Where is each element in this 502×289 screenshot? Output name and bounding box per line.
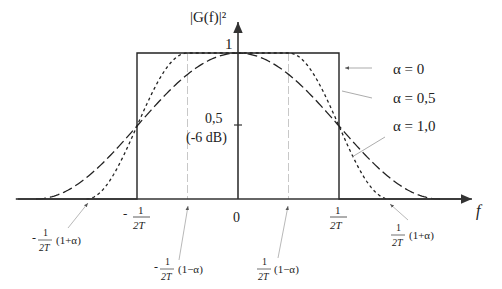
annotation-factor: (1−α) <box>178 263 203 276</box>
annotation-pointer <box>68 203 88 228</box>
tick-sign: - <box>123 206 127 221</box>
annotation-sign: - <box>154 260 158 274</box>
annotation-den: 2T <box>161 271 173 282</box>
annotation-num: 1 <box>262 256 267 267</box>
x-tick-label-neg-half-period: - 1 2T <box>123 204 150 231</box>
annotation-den: 2T <box>39 242 51 253</box>
legend-label-alpha-10: α = 1,0 <box>393 118 436 134</box>
annotation-num: 1 <box>396 222 401 233</box>
y-tick-label-1: 1 <box>225 36 233 52</box>
y-tick-label-half: 0,5 <box>205 111 223 126</box>
annotation-factor: (1+α) <box>56 234 81 247</box>
annotation-pointer <box>390 204 408 220</box>
annotation-pointer <box>179 206 188 260</box>
raised-cosine-spectrum-diagram: |G(f)|² f 1 0,5 (-6 dB) 0 - 1 2T 1 2T α … <box>0 0 502 289</box>
annotation-den: 2T <box>258 271 270 282</box>
annotation-sign: - <box>32 231 36 245</box>
x-tick-label-pos-half-period: 1 2T <box>330 204 347 231</box>
annotation-factor: (1−α) <box>274 263 299 276</box>
x-tick-label-zero: 0 <box>233 210 240 225</box>
annotation-pos-one-minus-alpha: 1 2T (1−α) <box>257 206 299 282</box>
annotation-neg-one-plus-alpha: - 1 2T (1+α) <box>32 203 88 253</box>
tick-den: 2T <box>330 219 343 231</box>
annotation-den: 2T <box>392 237 404 248</box>
tick-num: 1 <box>138 204 144 216</box>
annotation-pos-one-plus-alpha: 1 2T (1+α) <box>390 204 434 248</box>
legend-label-alpha-0: α = 0 <box>393 61 424 77</box>
legend-pointer-alpha-05 <box>342 91 372 98</box>
y-tick-sublabel-db: (-6 dB) <box>186 130 227 146</box>
x-axis-label: f <box>476 202 483 220</box>
legend: α = 0 α = 0,5 α = 1,0 <box>342 61 436 157</box>
annotation-num: 1 <box>165 256 170 267</box>
annotation-factor: (1+α) <box>409 229 434 242</box>
annotation-num: 1 <box>43 227 48 238</box>
annotation-pointer <box>278 206 288 258</box>
legend-label-alpha-05: α = 0,5 <box>393 90 436 106</box>
tick-den: 2T <box>133 219 146 231</box>
annotation-neg-one-minus-alpha: - 1 2T (1−α) <box>154 206 203 282</box>
y-axis-label: |G(f)|² <box>190 9 227 26</box>
tick-num: 1 <box>335 204 341 216</box>
